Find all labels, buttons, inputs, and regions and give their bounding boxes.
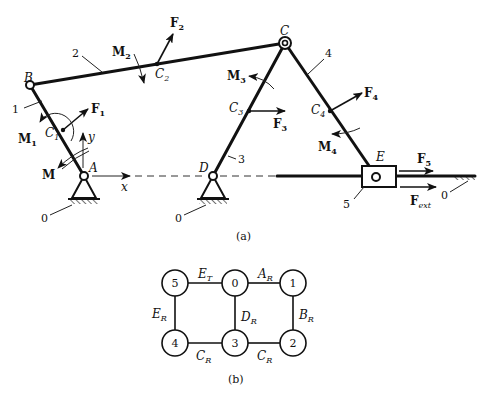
leader-link-4 xyxy=(308,59,324,74)
leader-ground-e xyxy=(450,181,468,192)
label-f4: F4 xyxy=(364,86,379,102)
leader-link-2 xyxy=(82,56,102,72)
linkage-diagram: x y xyxy=(12,16,475,243)
force-f1-arrow xyxy=(63,109,88,130)
label-edge-cr-right: CR xyxy=(257,349,272,365)
label-e: E xyxy=(375,150,385,164)
contour-graph: 5 0 1 4 3 2 ET AR ER DR BR CR CR (b) xyxy=(151,267,314,386)
label-link-2: 2 xyxy=(72,47,79,60)
svg-text:1: 1 xyxy=(290,277,297,290)
node-1: 1 xyxy=(280,270,306,296)
y-axis-label: y xyxy=(87,130,95,144)
label-c4: C4 xyxy=(311,103,325,119)
label-edge-dr: DR xyxy=(240,310,257,326)
label-f3: F3 xyxy=(273,117,288,133)
label-edge-cr-left: CR xyxy=(196,349,211,365)
joint-a xyxy=(80,172,88,180)
mechanism-figure: x y xyxy=(0,0,493,400)
label-edge-ar: AR xyxy=(257,267,273,283)
label-c: C xyxy=(280,24,289,38)
svg-text:3: 3 xyxy=(232,337,239,350)
svg-text:0: 0 xyxy=(232,277,239,290)
force-f4-arrow xyxy=(330,93,362,111)
label-f5: F5 xyxy=(417,152,431,168)
svg-text:5: 5 xyxy=(172,277,179,290)
label-ground-e: 0 xyxy=(441,189,448,202)
ground-hatch-e xyxy=(453,176,475,180)
caption-a: (a) xyxy=(236,230,251,243)
label-fext: Fext xyxy=(410,194,432,210)
leader-link-5 xyxy=(354,187,364,199)
label-m1: M1 xyxy=(18,132,37,148)
leader-link-3 xyxy=(228,156,236,159)
joint-c-inner xyxy=(283,41,288,46)
joint-d xyxy=(209,172,217,180)
svg-text:2: 2 xyxy=(290,337,297,350)
label-f2: F2 xyxy=(170,16,184,32)
force-f2-arrow xyxy=(157,34,173,64)
label-ground-d: 0 xyxy=(175,212,182,225)
label-b: B xyxy=(23,71,33,85)
label-m4: M4 xyxy=(318,140,337,156)
x-axis-label: x xyxy=(121,180,128,194)
label-link-4: 4 xyxy=(325,47,332,60)
link-1 xyxy=(30,85,84,176)
label-edge-et: ET xyxy=(197,267,213,283)
label-link-5: 5 xyxy=(343,198,350,211)
label-c3: C3 xyxy=(229,101,243,117)
leader-ground-a xyxy=(50,205,72,215)
node-0: 0 xyxy=(222,270,248,296)
label-c2: C2 xyxy=(155,67,169,83)
label-edge-er: ER xyxy=(151,307,167,323)
node-3: 3 xyxy=(222,330,248,356)
label-m2: M2 xyxy=(112,45,131,61)
caption-b: (b) xyxy=(228,373,244,386)
label-a: A xyxy=(88,161,98,175)
label-link-1: 1 xyxy=(12,103,19,116)
node-4: 4 xyxy=(162,330,188,356)
joint-e xyxy=(372,173,380,181)
svg-text:4: 4 xyxy=(172,337,179,350)
label-edge-br: BR xyxy=(298,308,314,324)
label-f1: F1 xyxy=(91,102,105,118)
label-ground-a: 0 xyxy=(41,212,48,225)
leader-ground-d xyxy=(184,205,206,215)
leader-link-1 xyxy=(24,101,42,108)
label-d: D xyxy=(198,161,209,175)
node-5: 5 xyxy=(162,270,188,296)
label-m3: M3 xyxy=(227,69,246,85)
label-link-3: 3 xyxy=(238,153,245,166)
node-2: 2 xyxy=(280,330,306,356)
label-m: M xyxy=(42,168,55,182)
